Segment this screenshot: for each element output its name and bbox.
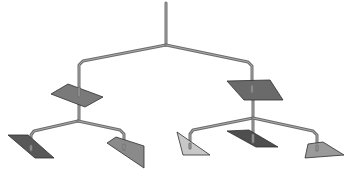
rods-layer — [31, 3, 317, 148]
top-arm-left-rod — [79, 45, 166, 90]
mobile-diagram — [0, 0, 344, 170]
panel-upper-left — [51, 84, 103, 107]
panel-lower-5 — [305, 142, 344, 158]
panel-lower-3 — [177, 132, 210, 155]
panel-lower-2 — [107, 137, 144, 168]
mobile-canvas — [0, 0, 344, 170]
panel-upper-right — [227, 80, 283, 100]
